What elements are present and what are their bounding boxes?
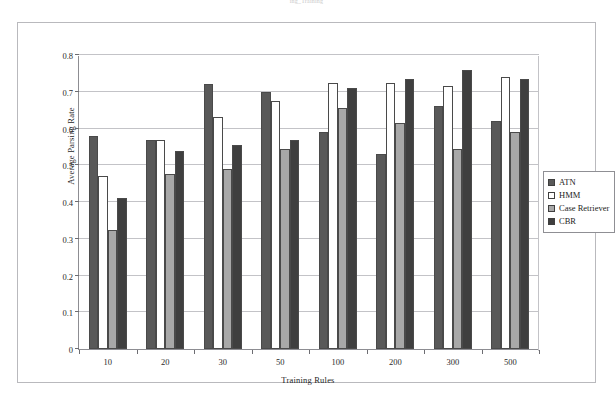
bar [328, 83, 338, 349]
bar [271, 101, 281, 349]
y-axis-tick-labels: 00.10.20.30.40.50.60.70.8 [40, 56, 73, 350]
legend-swatch-icon [548, 205, 555, 212]
x-axis-tick-label: 300 [446, 358, 459, 367]
x-axis-tick-mark [137, 350, 138, 354]
bar [338, 108, 348, 349]
bar [491, 121, 501, 349]
bar [261, 92, 271, 349]
x-axis-tick-mark [424, 350, 425, 354]
y-axis-tick-mark [75, 164, 79, 165]
x-axis-tick-mark [194, 350, 195, 354]
legend-swatch-icon [548, 192, 555, 199]
legend-item: Case Retriever [548, 202, 609, 215]
x-axis-tick-mark [309, 350, 310, 354]
plot-area: 10203050100200300500 [78, 56, 538, 350]
y-axis-tick-mark [75, 128, 79, 129]
bar [280, 149, 290, 349]
y-axis-tick-label: 0.8 [62, 52, 73, 61]
x-axis-tick-label: 10 [104, 358, 113, 367]
bar [223, 169, 233, 349]
y-axis-tick-mark [75, 311, 79, 312]
chart-legend: ATNHMMCase RetrieverCBR [543, 171, 615, 233]
y-axis-tick-mark [75, 54, 79, 55]
y-axis-tick-label: 0.7 [62, 89, 73, 98]
legend-item-label: CBR [559, 217, 576, 226]
legend-swatch-icon [548, 179, 555, 186]
x-axis-tick-mark [539, 350, 540, 354]
bar [453, 149, 463, 349]
bar [434, 106, 444, 349]
legend-item: ATN [548, 176, 609, 189]
x-axis-tick-label: 100 [331, 358, 344, 367]
bar [108, 230, 118, 349]
x-axis-tick-label: 50 [276, 358, 285, 367]
bar [165, 174, 175, 349]
x-axis-tick-label: 20 [161, 358, 170, 367]
legend-item: HMM [548, 189, 609, 202]
y-axis-tick-mark [75, 238, 79, 239]
bar [89, 136, 99, 349]
bar [213, 117, 223, 349]
y-axis-tick-label: 0.2 [62, 272, 73, 281]
bar [175, 151, 185, 349]
y-axis-tick-label: 0 [69, 346, 73, 355]
bar [462, 70, 472, 349]
x-axis-tick-mark [252, 350, 253, 354]
legend-item-label: Case Retriever [559, 204, 609, 213]
x-axis-tick-mark [79, 350, 80, 354]
x-axis-title: Training Rules [78, 375, 538, 385]
y-axis-tick-label: 0.6 [62, 125, 73, 134]
y-axis-tick-label: 0.5 [62, 162, 73, 171]
y-axis-tick-mark [75, 275, 79, 276]
bar [156, 140, 166, 349]
bar [405, 79, 415, 349]
x-axis-tick-label: 500 [504, 358, 517, 367]
plot-frame-right [538, 56, 539, 351]
y-axis-tick-label: 0.4 [62, 199, 73, 208]
x-axis-tick-label: 200 [389, 358, 402, 367]
y-axis-tick-label: 0.1 [62, 309, 73, 318]
x-axis-tick-mark [367, 350, 368, 354]
bar [395, 123, 405, 349]
gridline [79, 54, 539, 55]
legend-swatch-icon [548, 218, 555, 225]
y-axis-tick-label: 0.3 [62, 236, 73, 245]
bar [319, 132, 329, 349]
bar [386, 83, 396, 349]
x-axis-tick-label: 30 [219, 358, 228, 367]
bar [520, 79, 530, 349]
bar [510, 132, 520, 349]
bar [204, 84, 214, 349]
bar [98, 176, 108, 349]
bar [376, 154, 386, 349]
figure-frame: Average Parsing Rate 00.10.20.30.40.50.6… [17, 22, 596, 383]
y-axis-tick-mark [75, 91, 79, 92]
legend-item-label: ATN [559, 178, 576, 187]
bar [501, 77, 511, 349]
bar [232, 145, 242, 349]
legend-item-label: HMM [559, 191, 580, 200]
bar [347, 88, 357, 349]
bar [117, 198, 127, 349]
x-axis-tick-mark [482, 350, 483, 354]
clipped-top-caption: ing_Training [0, 0, 613, 7]
legend-item: CBR [548, 215, 609, 228]
bar [146, 140, 156, 349]
y-axis-tick-mark [75, 348, 79, 349]
bar [290, 140, 300, 349]
y-axis-tick-mark [75, 201, 79, 202]
bar [443, 86, 453, 349]
